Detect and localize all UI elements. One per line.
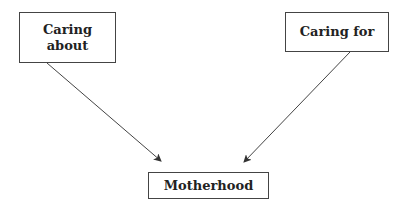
node-label: Motherhood xyxy=(164,178,254,194)
arrow-caring-about-to-motherhood xyxy=(47,63,161,161)
node-caring-about: Caring about xyxy=(19,12,116,63)
node-motherhood: Motherhood xyxy=(148,172,269,199)
arrow-caring-for-to-motherhood xyxy=(244,52,350,162)
node-label-line1: Caring xyxy=(43,22,92,38)
node-label-line2: about xyxy=(43,38,92,54)
node-label: Caring for xyxy=(300,24,375,40)
node-caring-for: Caring for xyxy=(285,12,389,52)
